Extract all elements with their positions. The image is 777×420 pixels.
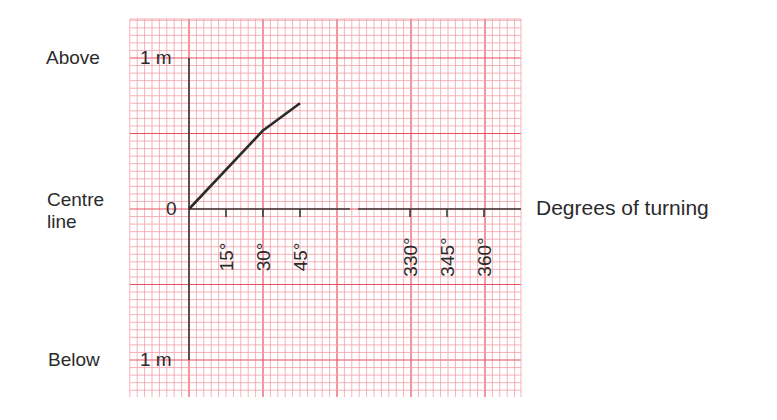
x-tick-label: 45° [290, 243, 311, 272]
x-axis-title: Degrees of turning [536, 197, 709, 219]
label-top-value: 1 m [140, 47, 172, 69]
x-tick-label: 15° [216, 243, 237, 272]
x-tick-label: 360° [474, 237, 495, 276]
label-below: Below [48, 349, 100, 371]
x-ticks: 15°30°45°330°345°360° [216, 209, 495, 277]
label-bottom-value: 1 m [140, 349, 172, 371]
label-zero: 0 [166, 198, 177, 220]
label-centre-line-2: line [47, 211, 77, 233]
x-tick-label: 345° [437, 237, 458, 276]
x-tick-label: 330° [400, 237, 421, 276]
x-tick-label: 30° [253, 243, 274, 272]
label-centre-line-1: Centre [47, 189, 104, 211]
label-above: Above [46, 47, 100, 69]
